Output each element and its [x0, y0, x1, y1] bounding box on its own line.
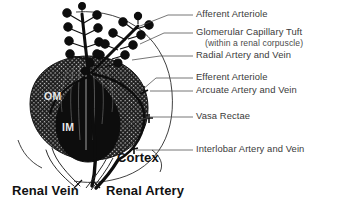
annotation-inner-medulla: IM: [62, 121, 74, 133]
callout-afferent-arteriole: Afferent Arteriole: [196, 9, 267, 20]
callout-glomerular-capillary-tuft: Glomerular Capillary Tuft: [196, 27, 302, 38]
glomeruli-right-column: [81, 12, 153, 74]
annotation-renal-vein: Renal Vein: [12, 183, 79, 198]
callout-arcuate-artery-and-vein: Arcuate Artery and Vein: [196, 85, 297, 96]
callout-radial-artery-and-vein: Radial Artery and Vein: [196, 50, 291, 61]
kidney-vasculature-figure: Afferent Arteriole Glomerular Capillary …: [0, 0, 339, 211]
callout-interlobar-artery-and-vein: Interlobar Artery and Vein: [196, 144, 304, 155]
callout-efferent-arteriole: Efferent Arteriole: [196, 72, 267, 83]
annotation-outer-medulla: OM: [44, 90, 62, 102]
annotation-renal-artery: Renal Artery: [106, 183, 184, 198]
callout-vasa-rectae: Vasa Rectae: [196, 111, 250, 122]
callout-glomerular-capillary-tuft-sub: (within a renal corpuscle): [205, 38, 303, 49]
annotation-cortex: Cortex: [117, 150, 159, 165]
